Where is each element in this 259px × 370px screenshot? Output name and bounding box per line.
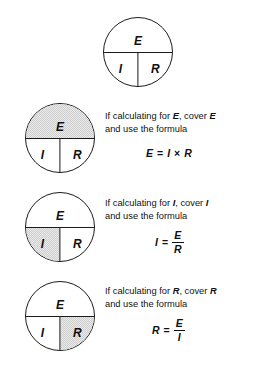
variable-r-2: R — [210, 286, 217, 296]
instruction-line-2: and use the formula — [105, 210, 208, 223]
text-prefix: If calculating for — [105, 198, 173, 208]
wheel-label-e: E — [25, 210, 95, 222]
ohms-law-wheel-figure: E I R E I R If calculating for E, cover … — [0, 0, 259, 370]
formula-i: I = E R — [155, 230, 184, 254]
instruction-line-1: If calculating for E, cover E — [105, 110, 216, 123]
wheel-disc — [25, 103, 95, 173]
fraction-denominator: I — [176, 331, 183, 343]
wheel-solve-for-r: E I R — [25, 281, 95, 351]
formula-operand-2: R — [184, 147, 192, 159]
formula-operand-1: I — [167, 147, 170, 159]
text-prefix: If calculating for — [105, 111, 173, 121]
formula-lhs: I — [155, 236, 158, 248]
text-prefix: If calculating for — [105, 286, 173, 296]
instruction-line-2: and use the formula — [105, 123, 216, 136]
wheel-label-r: R — [60, 238, 95, 250]
text-middle: , cover — [175, 198, 205, 208]
fraction-numerator: E — [172, 230, 183, 242]
instruction-text-r: If calculating for R, cover R and use th… — [105, 285, 217, 310]
fraction-numerator: E — [174, 318, 185, 330]
wheel-label-i: I — [103, 63, 138, 75]
instruction-line-1: If calculating for R, cover R — [105, 285, 217, 298]
variable-i-2: I — [206, 198, 209, 208]
wheel-label-i: I — [25, 238, 60, 250]
wheel-label-e: E — [25, 121, 95, 133]
wheel-solve-for-e: E I R — [25, 103, 95, 173]
wheel-label-e: E — [103, 35, 173, 47]
text-middle: , cover — [179, 286, 209, 296]
multiply-icon: × — [173, 147, 181, 159]
wheel-label-r: R — [60, 327, 95, 339]
wheel-disc — [25, 281, 95, 351]
wheel-label-i: I — [25, 149, 60, 161]
formula-lhs: E — [146, 147, 153, 159]
instruction-text-e: If calculating for E, cover E and use th… — [105, 110, 216, 135]
wheel-label-r: R — [60, 149, 95, 161]
formula-e: E = I × R — [146, 147, 192, 159]
wheel-label-i: I — [25, 327, 60, 339]
wheel-label-r: R — [138, 63, 173, 75]
instruction-text-i: If calculating for I, cover I and use th… — [105, 197, 208, 222]
fraction-denominator: R — [172, 243, 184, 255]
instruction-line-1: If calculating for I, cover I — [105, 197, 208, 210]
wheel-disc — [25, 192, 95, 262]
equals-sign: = — [156, 147, 164, 159]
formula-r: R = E I — [152, 318, 185, 342]
equals-sign: = — [163, 324, 171, 336]
fraction: E R — [172, 230, 184, 254]
equals-sign: = — [161, 236, 169, 248]
fraction: E I — [174, 318, 185, 342]
variable-e-2: E — [209, 111, 215, 121]
text-middle: , cover — [179, 111, 209, 121]
formula-lhs: R — [152, 324, 160, 336]
reference-wheel: E I R — [103, 17, 173, 87]
wheel-label-e: E — [25, 299, 95, 311]
wheel-solve-for-i: E I R — [25, 192, 95, 262]
instruction-line-2: and use the formula — [105, 298, 217, 311]
wheel-disc — [103, 17, 173, 87]
